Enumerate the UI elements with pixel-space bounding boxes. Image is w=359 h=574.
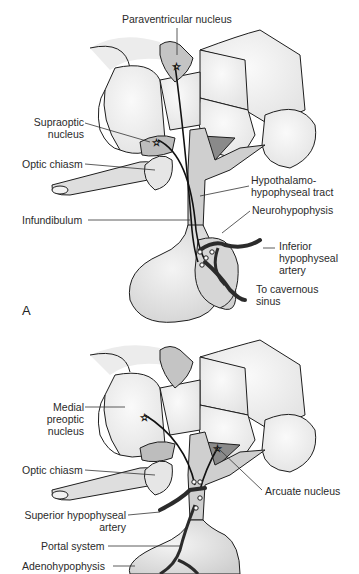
label-infundibulum: Infundibulum bbox=[22, 214, 82, 226]
svg-text:☆: ☆ bbox=[152, 137, 161, 148]
label-portal-system: Portal system bbox=[41, 540, 105, 552]
label-inferior-artery-2: hypophyseal bbox=[279, 252, 338, 264]
label-adenohypophysis: Adenohypophysis bbox=[22, 560, 105, 572]
label-hypothalamo-1: Hypothalamo- bbox=[251, 174, 316, 186]
label-superior-artery-2: artery bbox=[10, 521, 126, 533]
label-optic-chiasm-b: Optic chiasm bbox=[22, 464, 83, 476]
label-supraoptic-nucleus-1: Supraoptic bbox=[30, 116, 84, 128]
label-inferior-artery-1: Inferior bbox=[279, 240, 312, 252]
svg-text:☆: ☆ bbox=[172, 61, 181, 72]
label-cavernous-sinus-2: sinus bbox=[256, 295, 281, 307]
panel-a-letter: A bbox=[22, 303, 31, 318]
label-supraoptic-nucleus-2: nucleus bbox=[30, 128, 84, 140]
label-cavernous-sinus-1: To cavernous bbox=[256, 283, 318, 295]
svg-text:☆: ☆ bbox=[213, 443, 222, 454]
label-paraventricular-nucleus: Paraventricular nucleus bbox=[122, 13, 232, 25]
label-medial-preoptic-1: Medial bbox=[30, 401, 84, 413]
svg-text:☆: ☆ bbox=[140, 412, 149, 423]
label-neurohypophysis: Neurohypophysis bbox=[252, 204, 333, 216]
label-arcuate-nucleus: Arcuate nucleus bbox=[265, 485, 340, 497]
label-inferior-artery-3: artery bbox=[279, 264, 306, 276]
label-optic-chiasm-a: Optic chiasm bbox=[22, 158, 83, 170]
label-superior-artery-1: Superior hypophyseal bbox=[10, 509, 126, 521]
label-hypothalamo-2: hypophyseal tract bbox=[251, 186, 333, 198]
label-medial-preoptic-2: preoptic bbox=[30, 413, 84, 425]
panel-b-drawing: ☆ ☆ bbox=[52, 340, 316, 574]
label-medial-preoptic-3: nucleus bbox=[30, 425, 84, 437]
